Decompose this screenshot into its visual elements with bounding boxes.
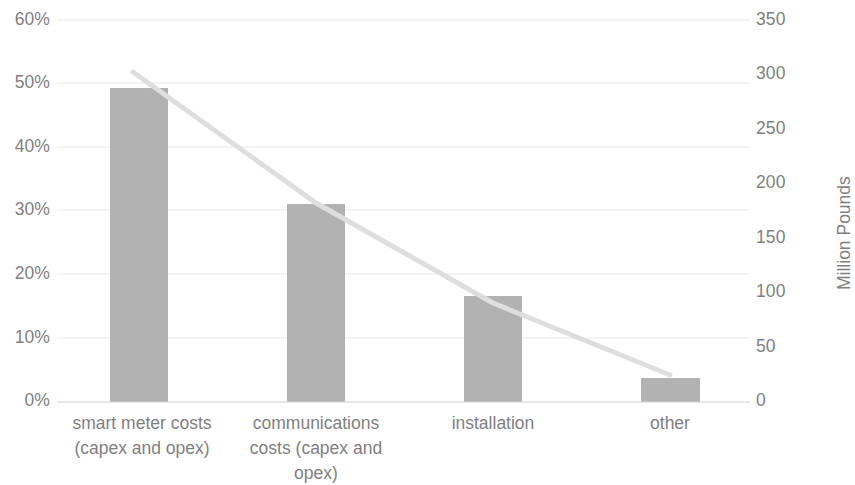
x-axis-category-label: installation bbox=[408, 411, 578, 436]
y-axis-left-tick: 50% bbox=[0, 72, 50, 93]
y-axis-left-tick: 10% bbox=[0, 327, 50, 348]
y-axis-right-tick: 200 bbox=[756, 172, 786, 193]
y-axis-right-tick: 350 bbox=[756, 9, 786, 30]
bar-smart-meter-costs bbox=[110, 88, 168, 402]
y-axis-left-tick: 40% bbox=[0, 136, 50, 157]
y-axis-left-tick: 60% bbox=[0, 9, 50, 30]
x-axis-category-label: smart meter costs (capex and opex) bbox=[57, 411, 227, 461]
cumulative-line-series bbox=[133, 72, 670, 375]
y-axis-left-tick: 30% bbox=[0, 199, 50, 220]
x-axis-category-label: communications costs (capex and opex) bbox=[231, 411, 401, 485]
bar-other bbox=[641, 378, 700, 402]
y-axis-right-tick: 150 bbox=[756, 227, 786, 248]
bar-communications-costs bbox=[287, 204, 345, 402]
y-axis-right-tick: 50 bbox=[756, 336, 776, 357]
y-axis-right-tick: 250 bbox=[756, 118, 786, 139]
bar-series bbox=[110, 88, 700, 402]
y-axis-right-tick: 100 bbox=[756, 281, 786, 302]
y-axis-left-tick: 20% bbox=[0, 263, 50, 284]
y-axis-right-title: Million Pounds bbox=[834, 176, 855, 290]
y-axis-right-tick: 300 bbox=[756, 63, 786, 84]
y-axis-right-tick: 0 bbox=[756, 390, 766, 411]
y-axis-left-tick: 0% bbox=[0, 390, 50, 411]
x-axis-category-label: other bbox=[585, 411, 755, 436]
